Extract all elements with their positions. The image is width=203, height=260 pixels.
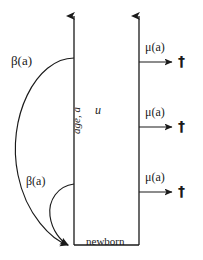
- newborn-label: newborn: [86, 236, 125, 247]
- birth-rate-label-small: β(a): [26, 175, 45, 187]
- birth-arc-large: [15, 58, 74, 245]
- population-density-label: u: [95, 104, 101, 116]
- grave-cross-icon-1: †: [178, 54, 185, 68]
- population-model-diagram: β(a) β(a) age, a u newborn μ(a) μ(a) μ(a…: [0, 0, 203, 260]
- birth-arc-small: [50, 184, 74, 245]
- grave-cross-icon-2: †: [178, 119, 185, 133]
- mortality-rate-label-2: μ(a): [145, 106, 165, 118]
- mortality-rate-label-3: μ(a): [145, 171, 165, 183]
- diagram-canvas: [0, 0, 203, 260]
- birth-rate-label-large: β(a): [11, 54, 32, 67]
- grave-cross-icon-3: †: [178, 184, 185, 198]
- age-axis-label: age, a: [71, 99, 82, 143]
- mortality-rate-label-1: μ(a): [145, 41, 165, 53]
